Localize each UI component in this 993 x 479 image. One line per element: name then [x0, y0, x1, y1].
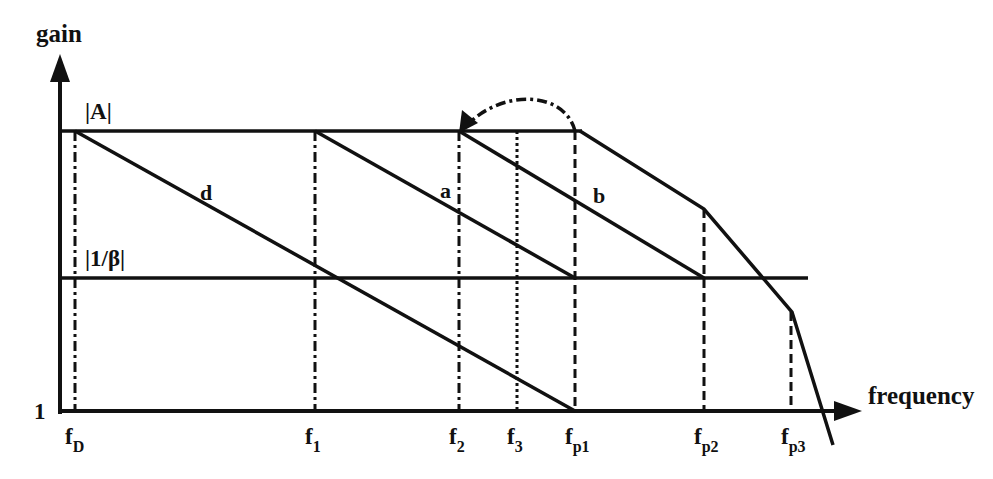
series-a-line — [315, 131, 575, 278]
series-d-label: d — [200, 180, 212, 205]
tick-subscript-f3: 3 — [515, 438, 523, 455]
y-origin-label: 1 — [34, 399, 46, 424]
x-axis-title: frequency — [868, 382, 975, 409]
bode-diagram: gain frequency 1 |A| |1/β| d a b fDf1f2f… — [0, 0, 993, 479]
tick-label-fp1: fp1 — [565, 424, 590, 456]
tick-label-f2: f2 — [449, 424, 465, 455]
series-b-label: b — [593, 183, 605, 208]
pole-splitting-arrow — [468, 99, 575, 131]
tick-subscript-f1: 1 — [313, 438, 321, 455]
tick-subscript-fD: D — [73, 438, 85, 455]
tick-label-f1: f1 — [305, 424, 321, 455]
tick-label-fp3: fp3 — [781, 424, 806, 456]
tick-label-fD: fD — [65, 424, 84, 455]
tick-label-f3: f3 — [507, 424, 523, 455]
tick-subscript-fp1: p1 — [573, 438, 590, 456]
series-b-line — [459, 131, 704, 278]
y-axis-arrowhead — [50, 54, 70, 82]
tick-subscript-f2: 2 — [457, 438, 465, 455]
series-a-label: a — [440, 178, 451, 203]
uncompensated-response-line — [580, 131, 833, 445]
open-loop-gain-label: |A| — [85, 99, 112, 124]
series-d-line — [75, 131, 575, 411]
tick-subscript-fp3: p3 — [789, 438, 806, 456]
y-axis-title: gain — [36, 20, 82, 47]
x-axis-arrowhead — [834, 401, 862, 421]
tick-subscript-fp2: p2 — [702, 438, 719, 456]
tick-label-fp2: fp2 — [694, 424, 719, 456]
feedback-level-label: |1/β| — [85, 246, 125, 271]
